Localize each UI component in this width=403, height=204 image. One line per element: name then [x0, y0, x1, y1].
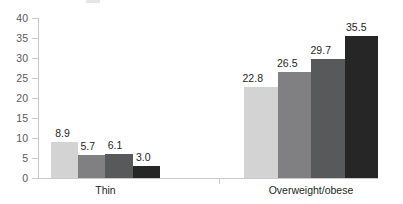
- y-axis-tick-label: 10: [2, 133, 28, 144]
- y-axis-tick-label: 30: [2, 53, 28, 64]
- cropped-title-artifact: [86, 0, 100, 3]
- bar-value-label: 5.7: [74, 141, 101, 152]
- y-axis-tick-label: 25: [2, 73, 28, 84]
- bar-value-label: 6.1: [101, 140, 128, 151]
- bar-value-label: 22.8: [236, 73, 270, 84]
- bar: [78, 155, 105, 178]
- y-axis-tick: [32, 18, 38, 19]
- y-axis-tick: [32, 178, 38, 179]
- y-axis-tick-label: 35: [2, 33, 28, 44]
- category-label: Thin: [51, 185, 160, 196]
- y-axis-tick-label: 20: [2, 93, 28, 104]
- bar-value-label: 3.0: [130, 152, 157, 163]
- bar: [278, 72, 312, 178]
- y-axis-line: [38, 18, 39, 179]
- bar: [311, 59, 345, 178]
- group-separator-tick: [219, 179, 220, 184]
- y-axis-tick: [32, 138, 38, 139]
- y-axis-tick: [32, 158, 38, 159]
- bar: [244, 87, 278, 178]
- category-label: Overweight/obese: [244, 185, 378, 196]
- y-axis-tick: [32, 118, 38, 119]
- y-axis-tick: [32, 78, 38, 79]
- bar: [133, 166, 160, 178]
- y-axis-tick-label: 5: [2, 153, 28, 164]
- y-axis-tick-label: 40: [2, 13, 28, 24]
- bar: [345, 36, 379, 178]
- y-axis-tick: [32, 58, 38, 59]
- y-axis-tick-label: 0: [2, 173, 28, 184]
- y-axis-tick: [32, 98, 38, 99]
- bar-chart: 4035302520151050 8.95.76.13.022.826.529.…: [0, 0, 403, 204]
- bar: [105, 154, 132, 178]
- bar-value-label: 35.5: [340, 22, 374, 33]
- bar-value-label: 26.5: [271, 58, 305, 69]
- y-axis-tick-label: 15: [2, 113, 28, 124]
- bar-value-label: 8.9: [49, 128, 76, 139]
- y-axis-tick: [32, 38, 38, 39]
- bar-value-label: 29.7: [304, 45, 338, 56]
- x-axis-line: [38, 178, 378, 179]
